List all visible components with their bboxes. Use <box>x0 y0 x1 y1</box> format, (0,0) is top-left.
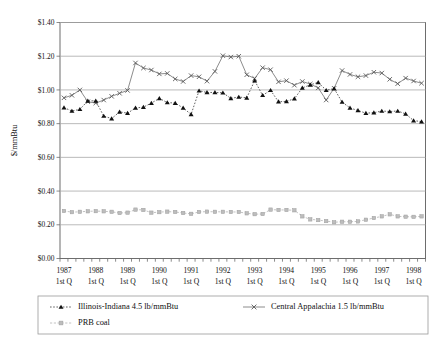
data-point-marker <box>70 210 73 213</box>
ytick-label: $1.20 <box>38 52 55 61</box>
data-point-marker <box>340 220 343 223</box>
xtick-year-label: 1995 <box>311 266 326 275</box>
data-point-marker <box>174 210 177 213</box>
xtick-quarter-label: 1st Q <box>405 277 422 286</box>
xtick-year-label: 1992 <box>215 266 230 275</box>
data-point-marker <box>126 211 129 214</box>
data-point-marker <box>309 218 312 221</box>
xtick-quarter-label: 1st Q <box>88 277 105 286</box>
data-point-marker <box>277 208 280 211</box>
legend-label: PRB coal <box>78 318 111 327</box>
data-point-marker <box>94 209 97 212</box>
data-point-marker <box>86 210 89 213</box>
data-point-marker <box>269 208 272 211</box>
data-point-marker <box>348 220 351 223</box>
data-point-marker <box>134 208 137 211</box>
data-point-marker <box>189 212 192 215</box>
data-point-marker <box>388 213 391 216</box>
ytick-label: $0.40 <box>38 187 55 196</box>
xtick-year-label: 1990 <box>152 266 167 275</box>
data-point-marker <box>150 211 153 214</box>
ytick-label: $1.00 <box>38 86 55 95</box>
data-point-marker <box>396 215 399 218</box>
xtick-year-label: 1989 <box>120 266 135 275</box>
data-point-marker <box>420 215 423 218</box>
chart-svg: $0.00$0.20$0.40$0.60$0.80$1.00$1.20$1.40… <box>0 0 443 345</box>
ytick-label: $1.40 <box>38 18 55 27</box>
ytick-label: $0.20 <box>38 220 55 229</box>
y-axis-title: $/mmBtu <box>10 124 19 156</box>
legend-entry[interactable]: Central Appalachia 1.5 lb/mmBtu <box>243 302 385 311</box>
ytick-label: $0.80 <box>38 119 55 128</box>
xtick-quarter-label: 1st Q <box>183 277 200 286</box>
data-point-marker <box>245 212 248 215</box>
data-point-marker <box>221 210 224 213</box>
data-point-marker <box>372 216 375 219</box>
xtick-quarter-label: 1st Q <box>374 277 391 286</box>
legend-entry[interactable]: PRB coal <box>50 318 111 327</box>
ytick-label: $0.60 <box>38 153 55 162</box>
data-point-marker <box>285 208 288 211</box>
data-point-marker <box>62 209 65 212</box>
legend-label: Central Appalachia 1.5 lb/mmBtu <box>271 302 385 311</box>
data-point-marker <box>166 210 169 213</box>
data-point-marker <box>197 210 200 213</box>
xtick-year-label: 1998 <box>406 266 421 275</box>
data-point-marker <box>364 218 367 221</box>
xtick-year-label: 1997 <box>374 266 389 275</box>
xtick-quarter-label: 1st Q <box>247 277 264 286</box>
xtick-quarter-label: 1st Q <box>278 277 295 286</box>
xtick-year-label: 1987 <box>56 266 71 275</box>
xtick-year-label: 1991 <box>184 266 199 275</box>
data-point-marker <box>380 215 383 218</box>
data-point-marker <box>205 210 208 213</box>
xtick-year-label: 1994 <box>279 266 294 275</box>
data-point-marker <box>253 212 256 215</box>
xtick-quarter-label: 1st Q <box>56 277 73 286</box>
data-point-marker <box>78 210 81 213</box>
xtick-quarter-label: 1st Q <box>119 277 136 286</box>
data-point-marker <box>229 210 232 213</box>
legend-entry[interactable]: Illinois-Indiana 4.5 lb/mmBtu <box>50 302 179 311</box>
coal-price-chart: $0.00$0.20$0.40$0.60$0.80$1.00$1.20$1.40… <box>0 0 443 345</box>
xtick-quarter-label: 1st Q <box>151 277 168 286</box>
data-point-marker <box>118 211 121 214</box>
data-point-marker <box>110 210 113 213</box>
legend-label: Illinois-Indiana 4.5 lb/mmBtu <box>78 302 179 311</box>
data-point-marker <box>301 215 304 218</box>
xtick-year-label: 1988 <box>88 266 103 275</box>
xtick-quarter-label: 1st Q <box>342 277 359 286</box>
data-point-marker <box>181 211 184 214</box>
ytick-label: $0.00 <box>38 254 55 263</box>
xtick-quarter-label: 1st Q <box>310 277 327 286</box>
plot-area-frame <box>60 23 426 259</box>
data-point-marker <box>404 215 407 218</box>
data-point-marker <box>293 209 296 212</box>
data-point-marker <box>356 220 359 223</box>
data-point-marker <box>317 218 320 221</box>
data-point-marker <box>142 208 145 211</box>
data-point-marker <box>261 212 264 215</box>
xtick-year-label: 1996 <box>342 266 357 275</box>
data-point-marker <box>158 210 161 213</box>
data-point-marker <box>237 210 240 213</box>
data-point-marker <box>213 210 216 213</box>
data-point-marker <box>102 210 105 213</box>
xtick-quarter-label: 1st Q <box>215 277 232 286</box>
xtick-year-label: 1993 <box>247 266 262 275</box>
square-marker <box>59 321 63 325</box>
data-point-marker <box>332 221 335 224</box>
data-point-marker <box>324 219 327 222</box>
triangle-marker <box>59 305 64 309</box>
data-point-marker <box>412 215 415 218</box>
